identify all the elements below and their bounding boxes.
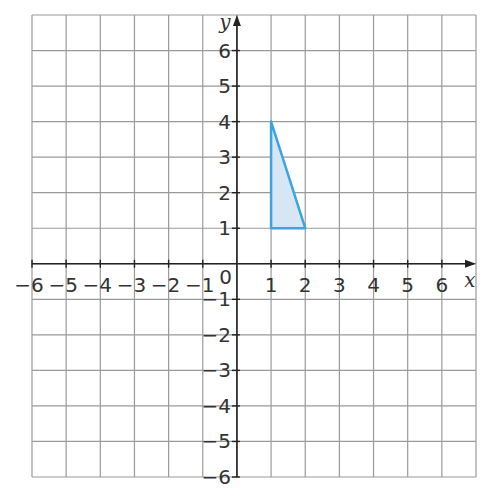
y-tick-label: 4	[218, 110, 231, 134]
x-tick-label: 2	[299, 273, 312, 297]
x-tick-label: 3	[333, 273, 346, 297]
y-tick-label: −5	[201, 429, 230, 453]
x-tick-label: 1	[265, 273, 278, 297]
y-tick-label: −2	[201, 323, 230, 347]
x-tick-label: 6	[435, 273, 448, 297]
y-axis-label: y	[218, 10, 231, 34]
coordinate-grid: −6−5−4−3−2−1123456−6−5−4−3−2−11234560xy	[0, 0, 486, 501]
x-tick-label: −5	[48, 273, 77, 297]
x-tick-label: −3	[117, 273, 146, 297]
y-tick-label: 5	[218, 74, 231, 98]
y-tick-label: 1	[218, 216, 231, 240]
grid-lines	[32, 15, 476, 477]
axes	[32, 15, 476, 477]
x-tick-label: −4	[83, 273, 112, 297]
x-axis-label: x	[464, 268, 475, 292]
origin-label: 0	[219, 265, 232, 289]
x-tick-label: 5	[401, 273, 414, 297]
triangle-shape	[271, 122, 305, 229]
y-tick-label: −3	[201, 358, 230, 382]
x-tick-label: −2	[151, 273, 180, 297]
shapes	[271, 122, 305, 229]
y-axis-arrow-icon	[233, 15, 241, 26]
x-axis-arrow-icon	[465, 260, 476, 268]
y-tick-label: 6	[218, 39, 231, 63]
tick-labels: −6−5−4−3−2−1123456−6−5−4−3−2−11234560xy	[14, 10, 475, 489]
x-tick-label: 4	[367, 273, 380, 297]
y-tick-label: −6	[201, 465, 230, 489]
y-tick-label: −1	[201, 287, 230, 311]
x-tick-label: −6	[14, 273, 43, 297]
y-tick-label: −4	[201, 394, 230, 418]
y-tick-label: 2	[218, 181, 231, 205]
y-tick-label: 3	[218, 145, 231, 169]
